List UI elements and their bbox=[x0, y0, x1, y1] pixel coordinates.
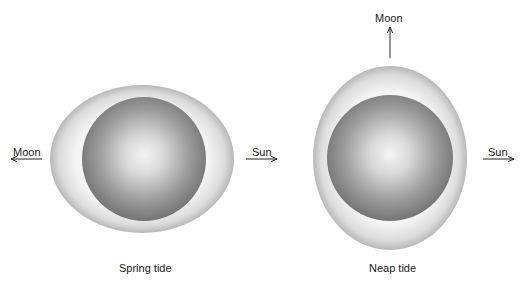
spring-tide-panel bbox=[11, 85, 277, 233]
spring-moon-label: Moon bbox=[13, 146, 41, 158]
neap-tide-caption: Neap tide bbox=[369, 262, 416, 274]
spring-tide-caption: Spring tide bbox=[119, 262, 172, 274]
neap-tide-panel bbox=[313, 27, 514, 250]
neap-tide-earth bbox=[327, 95, 453, 221]
tide-diagram: Moon Sun Spring tide Moon Sun Neap tide bbox=[0, 0, 523, 282]
spring-sun-label: Sun bbox=[252, 146, 272, 158]
neap-sun-label: Sun bbox=[488, 146, 508, 158]
spring-tide-earth bbox=[82, 97, 206, 221]
neap-moon-label: Moon bbox=[375, 12, 403, 24]
tide-diagram-art bbox=[0, 0, 523, 282]
